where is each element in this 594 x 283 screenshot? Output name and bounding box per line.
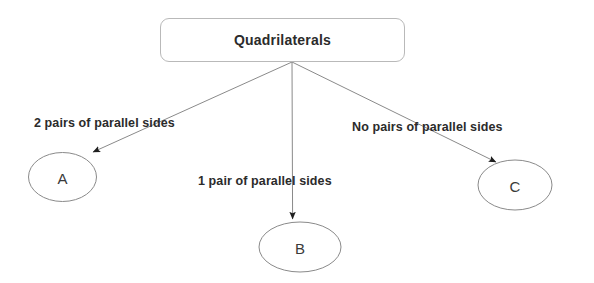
edge-label-2-pairs: 2 pairs of parallel sides [34, 116, 175, 130]
edge-label-1-pair: 1 pair of parallel sides [198, 174, 332, 188]
edge-line-root-to-b [292, 62, 293, 219]
edge-label-no-pairs: No pairs of parallel sides [352, 120, 503, 134]
edge-line-root-to-c [292, 62, 496, 162]
edge-line-root-to-a [93, 62, 292, 152]
root-node-quadrilaterals[interactable]: Quadrilaterals [160, 18, 405, 62]
node-label-c: C [510, 178, 521, 195]
node-label-b: B [295, 240, 305, 257]
diagram-canvas: Quadrilaterals 2 pairs of parallel sides… [0, 0, 594, 283]
root-node-label: Quadrilaterals [234, 32, 331, 48]
node-label-a: A [57, 170, 67, 187]
